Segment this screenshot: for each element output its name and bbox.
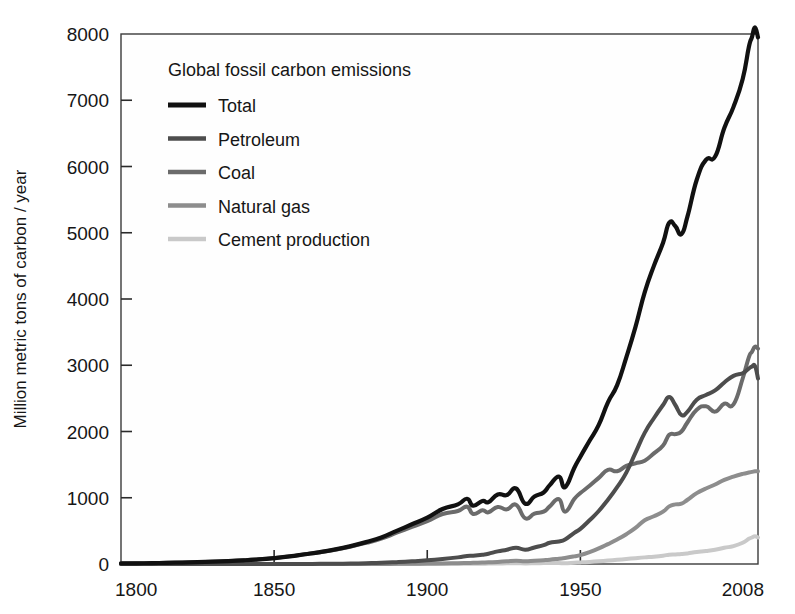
y-axis-label: Million metric tons of carbon / year [11, 169, 30, 428]
carbon-emissions-chart: Million metric tons of carbon / year 010… [0, 0, 795, 614]
legend-label: Natural gas [218, 197, 310, 217]
x-tick-label: 1800 [115, 579, 157, 600]
legend-label: Coal [218, 163, 255, 183]
y-tick-label: 5000 [67, 223, 109, 244]
legend-label: Total [218, 96, 256, 116]
legend-label: Cement production [218, 230, 370, 250]
y-tick-label: 6000 [67, 157, 109, 178]
legend-label: Petroleum [218, 130, 300, 150]
x-tick-label: 2008 [722, 579, 764, 600]
y-tick-label: 4000 [67, 289, 109, 310]
y-tick-label: 0 [98, 554, 109, 575]
x-tick-label: 1900 [406, 579, 448, 600]
y-tick-label: 2000 [67, 422, 109, 443]
legend-title: Global fossil carbon emissions [168, 60, 411, 80]
y-tick-label: 8000 [67, 24, 109, 45]
y-axis-tick-labels: 010002000300040005000600070008000 [67, 24, 109, 575]
x-tick-label: 1950 [559, 579, 601, 600]
y-tick-label: 7000 [67, 90, 109, 111]
y-tick-label: 1000 [67, 488, 109, 509]
x-tick-label: 1850 [253, 579, 295, 600]
y-tick-label: 3000 [67, 355, 109, 376]
plot-area-frame [121, 34, 758, 564]
